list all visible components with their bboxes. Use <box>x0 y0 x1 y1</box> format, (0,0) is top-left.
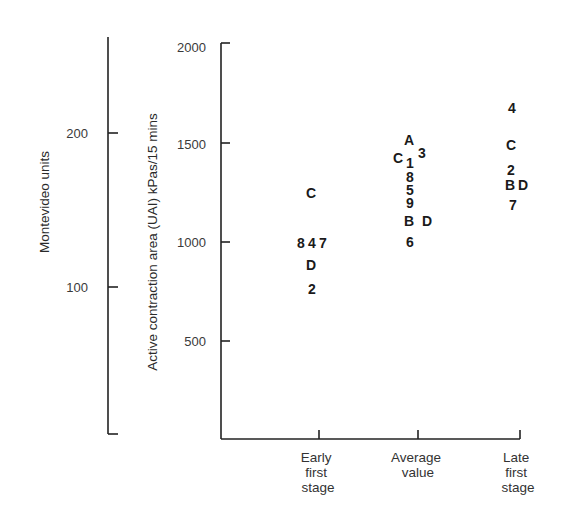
data-point-average-value-9: 9 <box>406 195 414 211</box>
data-point-late-first-stage-2: 2 <box>507 162 515 178</box>
uai-scatter-chart: 200 100 Montevideo units 2000 1500 1000 … <box>0 0 566 514</box>
uai-axis-title: Active contraction area (UAI) kPas/15 mi… <box>145 113 160 371</box>
data-point-average-value-a: A <box>404 132 414 148</box>
data-point-early-first-stage-7: 7 <box>319 235 327 251</box>
montevideo-tick-200: 200 <box>66 126 88 141</box>
category-label-late-first-stage: Late first stage <box>501 450 534 495</box>
uai-tick-1500: 1500 <box>177 137 206 152</box>
category-label-early-first-stage: Early first stage <box>301 450 336 495</box>
data-point-late-first-stage-d: D <box>518 177 528 193</box>
data-point-average-value-6: 6 <box>406 234 414 250</box>
x-axis: Early first stage Average value Late fir… <box>221 430 535 495</box>
data-point-early-first-stage-d: D <box>306 257 316 273</box>
data-point-early-first-stage-2: 2 <box>308 281 316 297</box>
data-point-markers: C847D2A3C1859BD64C2BD7 <box>297 100 528 297</box>
data-point-early-first-stage-4: 4 <box>308 235 316 251</box>
data-point-average-value-c: C <box>393 150 403 166</box>
data-point-early-first-stage-8: 8 <box>297 235 305 251</box>
montevideo-axis-title: Montevideo units <box>37 151 52 253</box>
montevideo-tick-100: 100 <box>66 280 88 295</box>
data-point-late-first-stage-4: 4 <box>508 100 516 116</box>
uai-tick-2000: 2000 <box>177 40 206 55</box>
uai-tick-1000: 1000 <box>177 235 206 250</box>
data-point-late-first-stage-b: B <box>505 177 515 193</box>
uai-axis: 2000 1500 1000 500 Active contraction ar… <box>145 40 230 439</box>
data-point-late-first-stage-c: C <box>506 137 516 153</box>
uai-tick-500: 500 <box>184 334 206 349</box>
data-point-early-first-stage-c: C <box>306 185 316 201</box>
data-point-average-value-3: 3 <box>418 145 426 161</box>
data-point-late-first-stage-7: 7 <box>509 197 517 213</box>
montevideo-axis: 200 100 Montevideo units <box>37 37 118 434</box>
data-point-average-value-b: B <box>404 213 414 229</box>
data-point-average-value-d: D <box>422 213 432 229</box>
category-label-average-value: Average value <box>391 450 445 480</box>
